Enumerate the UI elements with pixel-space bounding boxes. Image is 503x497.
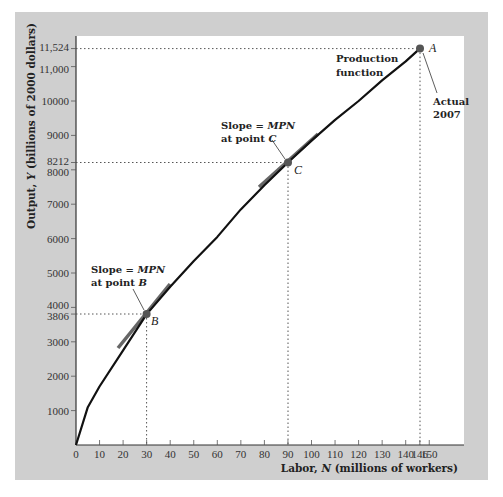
x-tick-label: 50 (188, 448, 200, 460)
point-b-marker (143, 310, 151, 318)
slope-b-atpoint: at point (91, 277, 138, 288)
point-a-label: A (428, 41, 437, 55)
x-axis-title-prefix: Labor, (281, 462, 322, 474)
point-a-marker (416, 45, 424, 53)
slope-b-line1: Slope = MPN (91, 264, 166, 275)
slope-b-point: B (137, 277, 146, 288)
x-tick-label: 130 (374, 448, 391, 460)
actual-2007-line1: Actual (432, 96, 469, 107)
y-tick-label: 10000 (42, 95, 70, 107)
point-c-label: C (294, 163, 303, 177)
y-axis-title-prefix: Output, (25, 180, 37, 229)
y-tick-label: 11,524 (39, 41, 69, 53)
y-tick-label: 2000 (47, 370, 70, 382)
x-tick-label: 70 (235, 448, 247, 460)
x-tick-label: 10 (94, 448, 106, 460)
plot-area (76, 36, 464, 445)
x-tick-label: 40 (165, 448, 177, 460)
x-tick-label: 30 (141, 448, 153, 460)
y-tick-label: 9000 (47, 129, 70, 141)
production-function-label-line1: Production (336, 53, 399, 64)
slope-c-line2: at point C (221, 133, 276, 144)
x-axis-title-suffix: (millions of workers) (331, 462, 458, 474)
production-function-label-line2: function (336, 67, 384, 78)
y-tick-label: 4000 (47, 299, 70, 311)
x-tick-label: 110 (327, 448, 344, 460)
actual-2007-line2: 2007 (433, 109, 461, 120)
y-tick-label: 7000 (47, 198, 70, 210)
slope-c-line1: Slope = MPN (221, 120, 296, 131)
slope-c-atpoint: at point (221, 133, 268, 144)
y-tick-label: 5000 (47, 267, 70, 279)
y-tick-label: 3000 (47, 336, 70, 348)
y-axis-title-suffix: (billions of 2000 dollars) (25, 23, 37, 173)
slope-c-var: MPN (266, 120, 296, 131)
x-tick-label: 120 (350, 448, 367, 460)
slope-b-prefix: Slope = (91, 264, 137, 275)
y-tick-label: 8212 (47, 155, 69, 167)
production-function-chart: 0102030405060708090100110120130140146150… (0, 0, 503, 497)
x-tick-label: 20 (118, 448, 130, 460)
y-tick-label: 3806 (47, 310, 70, 322)
y-tick-label: 8000 (47, 166, 70, 178)
x-tick-label: 60 (212, 448, 224, 460)
slope-c-point: C (268, 133, 276, 144)
y-axis-title: Output, Y (billions of 2000 dollars) (25, 23, 37, 229)
x-tick-label: 80 (259, 448, 271, 460)
x-axis-title: Labor, N (millions of workers) (281, 462, 458, 474)
y-tick-label: 6000 (47, 233, 70, 245)
y-tick-label: 1000 (47, 405, 70, 417)
point-b-label: B (151, 314, 159, 328)
x-tick-label: 90 (282, 448, 294, 460)
x-tick-label: 150 (421, 448, 438, 460)
x-tick-label: 100 (303, 448, 320, 460)
slope-c-prefix: Slope = (221, 120, 267, 131)
slope-b-var: MPN (136, 264, 166, 275)
point-c-marker (284, 159, 292, 167)
x-tick-label: 0 (73, 448, 79, 460)
y-tick-label: 11,000 (39, 63, 69, 75)
x-axis-title-var: N (320, 462, 331, 474)
slope-b-line2: at point B (91, 277, 147, 288)
